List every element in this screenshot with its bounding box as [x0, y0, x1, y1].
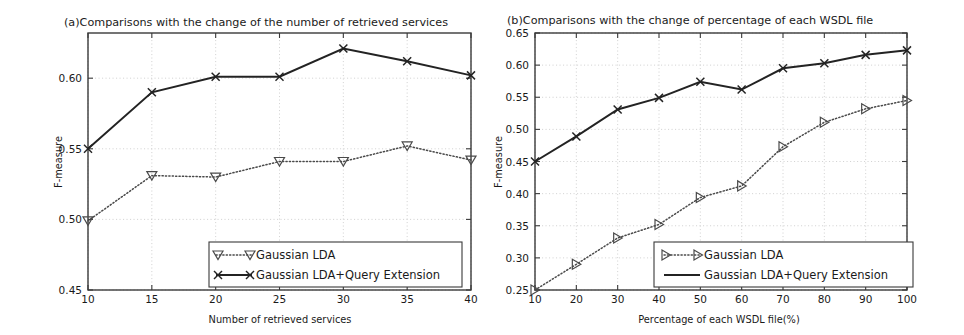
x-tick-label: 35 [400, 293, 413, 305]
x-tick-label: 40 [652, 293, 665, 305]
chart-b-legend-label-1: Gaussian LDA [704, 248, 783, 262]
chart-b-legend-label-2: Gaussian LDA+Query Extension [704, 268, 888, 282]
chart-a-legend[interactable]: Gaussian LDA Gaussian LDA+Query Extensio… [209, 242, 462, 287]
x-tick-label: 60 [735, 293, 748, 305]
y-tick-label: 0.45 [59, 284, 82, 296]
x-tick-label: 20 [570, 293, 583, 305]
x-tick-label: 25 [273, 293, 286, 305]
chart-a-x-tick-labels: 10152025303540 [81, 293, 477, 305]
x-tick-label: 30 [611, 293, 624, 305]
y-tick-label: 0.60 [506, 59, 529, 71]
chart-panel-b: (b)Comparisons with the change of percen… [482, 0, 964, 335]
chart-b-svg: (b)Comparisons with the change of percen… [482, 0, 964, 335]
chart-b-y-tick-labels: 0.250.300.350.400.450.500.550.600.65 [506, 27, 529, 296]
x-tick-label: 50 [694, 293, 707, 305]
data-point-marker [572, 132, 580, 140]
series-line-2 [88, 49, 471, 149]
chart-b-y-axis-label: F-measure [493, 136, 504, 188]
data-point-marker [655, 219, 664, 229]
chart-b-x-tick-labels: 102030405060708090100 [528, 293, 917, 305]
x-tick-label: 10 [528, 293, 541, 305]
y-tick-label: 0.55 [59, 143, 82, 155]
y-tick-label: 0.40 [506, 188, 529, 200]
x-tick-label: 80 [818, 293, 831, 305]
y-tick-label: 0.45 [506, 156, 529, 168]
chart-b-title: (b)Comparisons with the change of percen… [507, 14, 873, 27]
chart-a-svg: (a)Comparisons with the change of the nu… [0, 0, 482, 335]
y-tick-label: 0.50 [59, 213, 82, 225]
x-tick-label: 15 [145, 293, 158, 305]
x-tick-label: 90 [859, 293, 872, 305]
chart-a-legend-label-2: Gaussian LDA+Query Extension [256, 268, 440, 282]
chart-panel-a: (a)Comparisons with the change of the nu… [0, 0, 482, 335]
chart-a-title: (a)Comparisons with the change of the nu… [64, 16, 448, 29]
chart-b-legend[interactable]: Gaussian LDA Gaussian LDA+Query Extensio… [654, 242, 913, 287]
y-tick-label: 0.30 [506, 252, 529, 264]
x-tick-label: 100 [897, 293, 917, 305]
x-tick-label: 10 [81, 293, 94, 305]
x-tick-label: 70 [776, 293, 789, 305]
y-tick-label: 0.50 [506, 123, 529, 135]
y-tick-label: 0.35 [506, 220, 529, 232]
series-line-2 [535, 50, 907, 161]
chart-a-legend-label-1: Gaussian LDA [256, 248, 335, 262]
chart-b-x-axis-label: Percentage of each WSDL file(%) [638, 314, 799, 325]
y-tick-label: 0.55 [506, 91, 529, 103]
x-tick-label: 20 [209, 293, 222, 305]
chart-a-x-axis-label: Number of retrieved services [209, 314, 352, 325]
y-tick-label: 0.60 [59, 72, 82, 84]
data-point-marker [820, 117, 829, 127]
figure-container: (a)Comparisons with the change of the nu… [0, 0, 964, 335]
x-tick-label: 30 [337, 293, 350, 305]
x-tick-label: 40 [464, 293, 477, 305]
y-tick-label: 0.25 [506, 284, 529, 296]
y-tick-label: 0.65 [506, 27, 529, 39]
